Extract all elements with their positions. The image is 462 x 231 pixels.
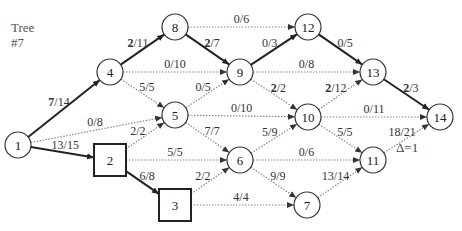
edge-label-3-6: 2/2 [195, 169, 210, 183]
edge-label-9-13: 0/8 [299, 57, 314, 71]
tree-title: Tree #7 [11, 20, 34, 50]
svg-text:2: 2 [107, 153, 114, 168]
edge-label-10-11: 5/5 [337, 125, 352, 139]
edge-label-4-8: 2/11 [128, 36, 149, 50]
node-9: 9 [227, 59, 253, 85]
edge-label-2-3: 6/8 [139, 169, 154, 183]
tree-title-line1: Tree [11, 20, 34, 35]
svg-text:4: 4 [107, 65, 114, 80]
edge-label-8-9: 2/7 [204, 36, 219, 50]
node-13: 13 [360, 59, 386, 85]
edge-label-2-5: 2/2 [130, 124, 145, 138]
edge-label-6-7: 9/9 [270, 169, 285, 183]
svg-text:10: 10 [302, 110, 315, 125]
edge-label-10-13: 2/12 [325, 81, 346, 95]
node-6: 6 [227, 147, 253, 173]
tree-title-line2: #7 [11, 35, 34, 50]
edge-label-10-14: 0/11 [364, 102, 385, 116]
edge-label-6-11: 0/6 [299, 145, 314, 159]
edge-label-5-9: 0/5 [195, 80, 210, 94]
node-4: 4 [97, 59, 123, 85]
svg-text:1: 1 [15, 138, 22, 153]
graph-canvas: 7/140/813/152/110/105/50/62/70/30/82/20/… [0, 0, 462, 231]
edge-label-5-10: 0/10 [231, 101, 252, 115]
node-12: 12 [295, 14, 321, 40]
node-5: 5 [162, 102, 188, 128]
delta-label: Δ=1 [396, 140, 418, 156]
svg-text:8: 8 [172, 20, 179, 35]
svg-text:3: 3 [172, 198, 179, 213]
edge-label-4-9: 0/10 [164, 57, 185, 71]
edge-label-3-7: 4/4 [233, 190, 248, 204]
edge-5-10 [188, 115, 295, 117]
edge-label-1-5: 0/8 [87, 115, 102, 129]
edge-label-8-12: 0/6 [234, 12, 249, 26]
svg-text:5: 5 [172, 108, 179, 123]
svg-text:7: 7 [304, 198, 311, 213]
edge-label-9-10: 2/2 [271, 81, 286, 95]
edge-label-2-6: 5/5 [167, 145, 182, 159]
svg-text:11: 11 [367, 153, 380, 168]
edge-label-4-5: 5/5 [139, 80, 154, 94]
edge-label-1-2: 13/15 [52, 138, 79, 152]
edge-label-13-14: 2/3 [403, 81, 418, 95]
edge-label-5-6: 7/7 [204, 124, 219, 138]
edge-label-12-13: 0/5 [337, 36, 352, 50]
edge-label-7-11: 13/14 [322, 169, 349, 183]
svg-text:6: 6 [237, 153, 244, 168]
svg-text:14: 14 [434, 110, 448, 125]
node-8: 8 [162, 14, 188, 40]
node-3: 3 [159, 189, 191, 221]
node-7: 7 [294, 192, 320, 218]
edge-label-1-4: 7/14 [48, 95, 69, 109]
node-11: 11 [360, 147, 386, 173]
svg-text:9: 9 [237, 65, 244, 80]
node-10: 10 [295, 104, 321, 130]
node-14: 14 [427, 104, 453, 130]
node-2: 2 [94, 144, 126, 176]
flow-network-diagram: Tree #7 Δ=1 7/140/813/152/110/105/50/62/… [0, 0, 462, 231]
svg-text:13: 13 [367, 65, 380, 80]
svg-text:12: 12 [302, 20, 315, 35]
nodes-layer: 1489121314510261137 [5, 14, 453, 221]
edge-label-6-10: 5/9 [262, 125, 277, 139]
edge-label-9-12: 0/3 [262, 36, 277, 50]
node-1: 1 [5, 132, 31, 158]
edge-label-11-14: 18/21 [389, 125, 416, 139]
